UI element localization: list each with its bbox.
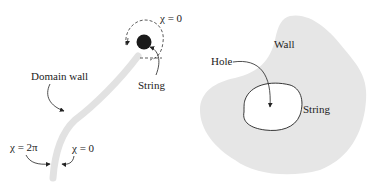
left-panel: χ = 0 String Domain wall χ = 2π χ = 0 [9,12,183,178]
chi-2pi-label: χ = 2π [9,141,38,153]
domain-wall-label: Domain wall [31,70,88,82]
domain-wall-diagram: χ = 0 String Domain wall χ = 2π χ = 0 Wa… [0,0,383,185]
wall-label: Wall [274,38,295,50]
string-label-right: String [303,103,330,115]
chi-bottom-label: χ = 0 [71,142,95,154]
chi-top-label: χ = 0 [159,12,183,24]
hole-string-loop [244,83,302,130]
hole-label: Hole [211,55,233,67]
string-core [137,35,152,50]
string-label: String [138,79,165,91]
right-panel: Wall Hole String [200,15,366,174]
